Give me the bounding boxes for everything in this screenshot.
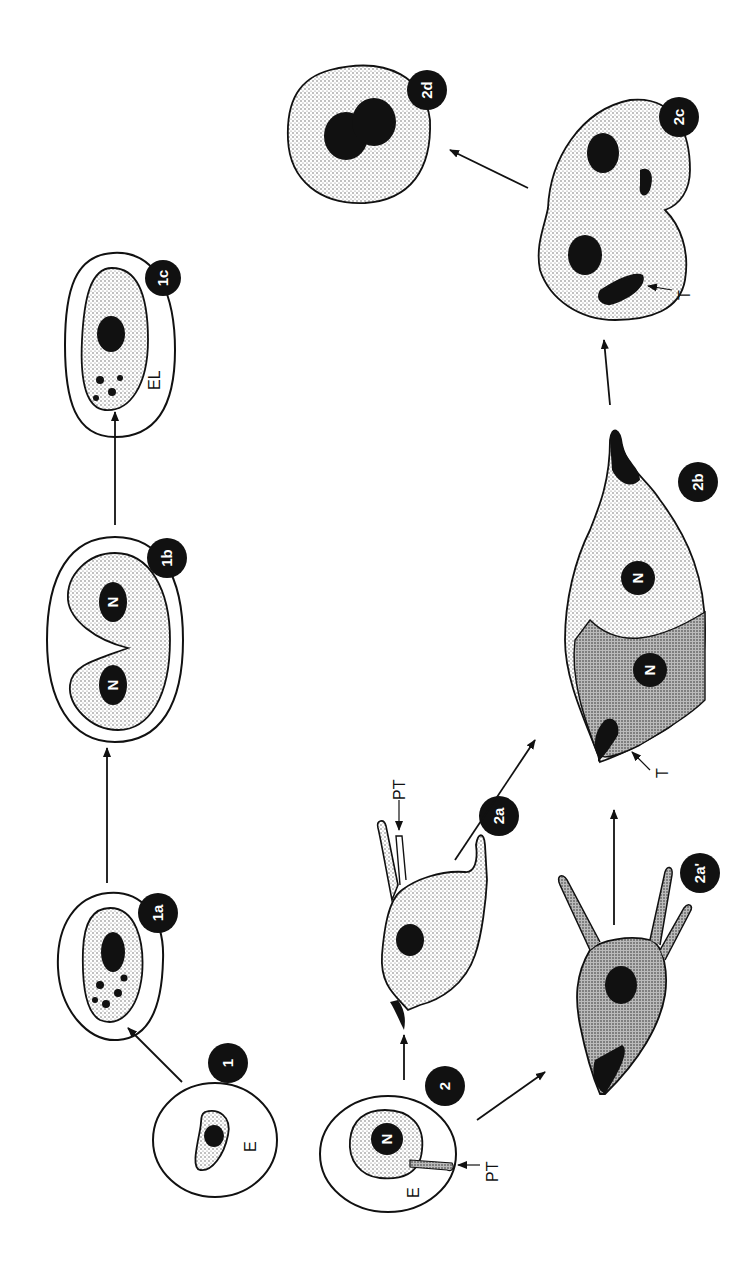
nucleus-icon bbox=[101, 932, 125, 972]
label-T: T bbox=[676, 290, 693, 300]
svg-text:N: N bbox=[104, 597, 121, 608]
stage-1a: 1a bbox=[58, 893, 178, 1040]
stage-2b: N N T 2b bbox=[565, 430, 718, 778]
arrow-2a-to-2b bbox=[455, 740, 535, 860]
nucleus-icon bbox=[352, 98, 396, 146]
stage-2a-prime: 2a' bbox=[559, 853, 720, 1094]
stage-badge-2b: 2b bbox=[689, 473, 706, 491]
label-PT: PT bbox=[484, 1161, 501, 1182]
arrow-2b-to-2c bbox=[604, 340, 610, 405]
nucleus-icon bbox=[97, 316, 125, 352]
nucleus-icon bbox=[396, 924, 424, 956]
label-EL: EL bbox=[146, 370, 163, 390]
stage-badge-2d: 2d bbox=[418, 81, 435, 99]
label-E: E bbox=[405, 1187, 422, 1198]
label-T: T bbox=[654, 768, 671, 778]
stage-badge-1: 1 bbox=[219, 1059, 236, 1067]
svg-text:N: N bbox=[378, 1134, 395, 1145]
stage-badge-2: 2 bbox=[436, 1082, 453, 1090]
stage-1c: EL 1c bbox=[65, 253, 181, 437]
stage-2d: 2d bbox=[288, 66, 447, 204]
arrow-2c-to-2d bbox=[450, 150, 528, 188]
polar-tube bbox=[396, 836, 406, 885]
arrow-2-to-2a-prime bbox=[477, 1072, 545, 1120]
stage-badge-2a-prime: 2a' bbox=[691, 863, 708, 883]
svg-text:N: N bbox=[104, 680, 121, 691]
stage-2: N E PT 2 bbox=[320, 1066, 501, 1212]
nucleus-icon bbox=[587, 133, 619, 173]
stage-badge-1c: 1c bbox=[154, 270, 171, 287]
svg-text:N: N bbox=[629, 573, 646, 584]
stage-1b: N N 1b bbox=[47, 537, 187, 742]
arrow-1-to-1a bbox=[128, 1028, 182, 1082]
nucleus-icon bbox=[605, 966, 637, 1004]
nucleus-icon bbox=[204, 1125, 224, 1147]
label-PT: PT bbox=[391, 779, 408, 800]
stage-2c: T 2c bbox=[539, 97, 699, 320]
svg-text:N: N bbox=[641, 665, 658, 676]
parasite-body bbox=[577, 938, 666, 1094]
stage-1: E 1 bbox=[153, 1043, 277, 1197]
stage-badge-1b: 1b bbox=[158, 549, 175, 567]
stage-badge-2c: 2c bbox=[670, 109, 687, 126]
stage-badge-2a: 2a bbox=[490, 807, 507, 824]
stage-badge-1a: 1a bbox=[149, 904, 166, 921]
life-cycle-diagram: E 1 1a N N 1b EL 1c N E bbox=[0, 0, 744, 1283]
nucleus-icon bbox=[568, 235, 602, 275]
stage-2a: PT 2a bbox=[378, 779, 519, 1030]
label-E: E bbox=[242, 1141, 259, 1152]
